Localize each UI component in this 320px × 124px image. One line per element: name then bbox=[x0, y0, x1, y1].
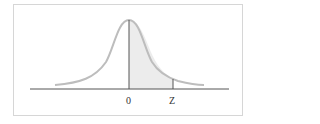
label-z: Z bbox=[169, 96, 175, 106]
label-zero: 0 bbox=[126, 96, 131, 106]
shaded-area bbox=[129, 20, 173, 89]
